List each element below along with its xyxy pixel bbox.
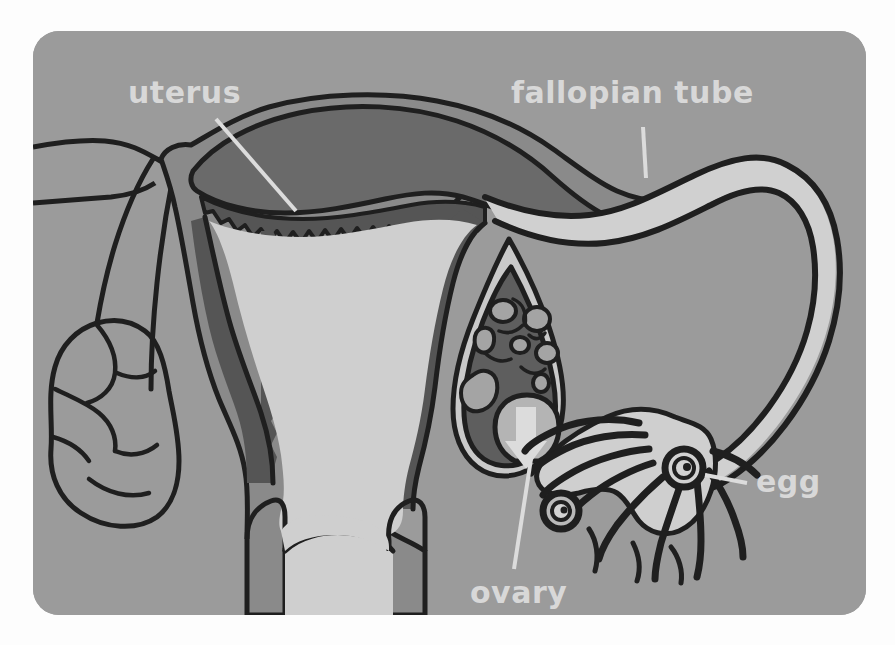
label-egg: egg [756,464,821,499]
follicle-3 [511,337,529,353]
label-uterus: uterus [128,75,241,110]
egg-released-nucleus [561,507,568,514]
follicle-4 [536,343,558,363]
egg-released [543,493,579,529]
diagram-page: uterus fallopian tube egg ovary [0,0,895,645]
label-fallopian-tube: fallopian tube [511,75,754,110]
egg-in-fimbriae [665,449,703,487]
follicle-6 [533,374,549,392]
label-ovary: ovary [470,575,567,610]
egg-in-fimbriae-nucleus [683,463,691,471]
diagram-card: uterus fallopian tube egg ovary [33,31,866,615]
follicle-5 [475,328,494,353]
follicle-1 [490,300,516,322]
fimbria-7 [697,481,701,577]
vaginal-canal [285,533,393,615]
anatomy-illustration: uterus fallopian tube egg ovary [33,31,866,615]
follicle-2 [524,307,550,331]
